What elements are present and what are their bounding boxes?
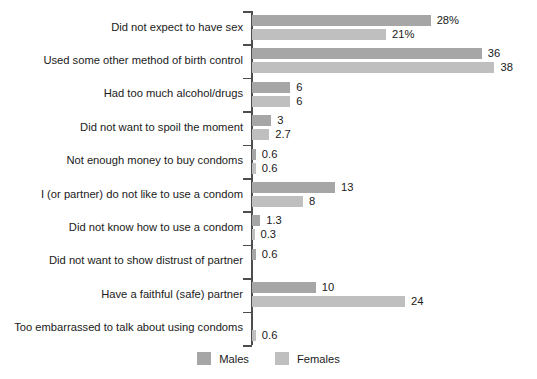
bar-males — [252, 115, 271, 126]
axis-tick — [243, 278, 252, 280]
plot-area: Did not expect to have sex28%21%Used som… — [0, 0, 537, 345]
category-label: Too embarrassed to talk about using cond… — [0, 321, 243, 334]
category-row: Had too much alcohol/drugs66 — [0, 78, 537, 111]
bar-value-label: 0.6 — [262, 248, 278, 261]
legend-item-males: Males — [197, 352, 249, 365]
category-label: Used some other method of birth control — [0, 54, 243, 67]
bar-value-label: 21% — [392, 28, 414, 41]
bar-males — [252, 249, 256, 260]
legend-label-females: Females — [297, 353, 340, 365]
bar-value-label: 3 — [277, 114, 283, 127]
bar-value-label: 0.6 — [262, 329, 278, 342]
bar-females — [252, 196, 303, 207]
category-label: Did not want to spoil the moment — [0, 121, 243, 134]
category-row: I (or partner) do not like to use a cond… — [0, 178, 537, 211]
category-row: Used some other method of birth control3… — [0, 44, 537, 77]
bar-females — [252, 229, 255, 240]
bar-value-label: 28% — [437, 14, 459, 27]
axis-tick — [243, 178, 252, 180]
bar-value-label: 1.3 — [266, 214, 282, 227]
bar-value-label: 0.6 — [262, 162, 278, 175]
bar-value-label: 6 — [296, 81, 302, 94]
bar-males — [252, 48, 482, 59]
axis-tick — [243, 44, 252, 46]
bar-males — [252, 149, 256, 160]
category-label: Did not expect to have sex — [0, 21, 243, 34]
category-label: Did not know how to use a condom — [0, 221, 243, 234]
category-label: Had too much alcohol/drugs — [0, 87, 243, 100]
bar-females — [252, 29, 386, 40]
axis-tick — [243, 11, 252, 13]
bar-value-label: 36 — [488, 47, 500, 60]
axis-tick — [243, 345, 252, 347]
bar-value-label: 2.7 — [275, 128, 291, 141]
legend-swatch-males-icon — [197, 352, 211, 365]
bar-value-label: 10 — [322, 281, 334, 294]
axis-tick — [243, 78, 252, 80]
legend-swatch-females-icon — [275, 352, 289, 365]
bar-value-label: 6 — [296, 95, 302, 108]
legend-label-males: Males — [219, 353, 249, 365]
axis-tick — [243, 211, 252, 213]
bar-value-label: 38 — [500, 61, 512, 74]
bar-males — [252, 215, 260, 226]
bar-value-label: 13 — [341, 181, 353, 194]
category-row: Too embarrassed to talk about using cond… — [0, 312, 537, 345]
category-label: Did not want to show distrust of partner — [0, 254, 243, 267]
axis-tick — [243, 312, 252, 314]
axis-tick — [243, 145, 252, 147]
category-row: Did not know how to use a condom1.30.3 — [0, 211, 537, 244]
bar-value-label: 8 — [309, 195, 315, 208]
chart-legend: Males Females — [0, 352, 537, 365]
bar-value-label: 0.6 — [262, 148, 278, 161]
bar-females — [252, 96, 290, 107]
bar-females — [252, 296, 405, 307]
category-row: Not enough money to buy condoms0.60.6 — [0, 145, 537, 178]
bar-females — [252, 163, 256, 174]
category-label: Have a faithful (safe) partner — [0, 288, 243, 301]
category-label: Not enough money to buy condoms — [0, 154, 243, 167]
bar-value-label: 24 — [411, 295, 423, 308]
axis-tick — [243, 111, 252, 113]
bar-females — [252, 62, 494, 73]
bar-females — [252, 129, 269, 140]
category-label: I (or partner) do not like to use a cond… — [0, 188, 243, 201]
bar-males — [252, 15, 431, 26]
bar-value-label: 0.3 — [261, 228, 277, 241]
bar-males — [252, 82, 290, 93]
bar-males — [252, 182, 335, 193]
bar-females — [252, 330, 256, 341]
category-row: Did not want to spoil the moment32.7 — [0, 111, 537, 144]
legend-item-females: Females — [275, 352, 340, 365]
category-row: Did not want to show distrust of partner… — [0, 245, 537, 278]
category-row: Did not expect to have sex28%21% — [0, 11, 537, 44]
bar-chart: Did not expect to have sex28%21%Used som… — [0, 0, 537, 379]
category-row: Have a faithful (safe) partner1024 — [0, 278, 537, 311]
bar-males — [252, 282, 316, 293]
axis-tick — [243, 245, 252, 247]
